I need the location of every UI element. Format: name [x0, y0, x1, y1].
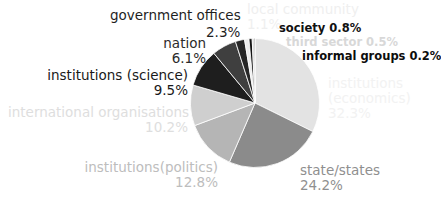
slice-label-line: international organisations [8, 105, 188, 120]
slice-value: 12.8% [78, 175, 218, 190]
slice-label-government-offices: government offices [110, 8, 241, 23]
slice-label-line: society 0.8% [279, 22, 361, 35]
pie-chart [190, 38, 320, 168]
slice-label-informal-groups: informal groups 0.2% [302, 50, 441, 63]
slice-label-line: institutions (science) [22, 68, 188, 83]
slice-value: 2.3% [206, 25, 240, 40]
slice-label-line: state/states [300, 163, 380, 178]
slice-label-line: nation [90, 36, 206, 51]
slice-value-government-offices: 2.3% [206, 25, 240, 40]
slice-label-line: government offices [110, 8, 241, 23]
slice-label-line: local community [247, 2, 359, 17]
slice-label-institutions-economics: institutions (economics) 32.3% [328, 76, 411, 121]
slice-label-nation: nation 6.1% [90, 36, 206, 66]
slice-label-institutions-politics: institutions(politics) 12.8% [78, 160, 218, 190]
slice-label-society: society 0.8% [279, 22, 361, 35]
slice-label-state-states: state/states 24.2% [300, 163, 380, 193]
slice-label-line: (economics) [328, 91, 411, 106]
slice-label-international-organisations: international organisations 10.2% [8, 105, 188, 135]
slice-value: 32.3% [328, 106, 411, 121]
slice-label-institutions-science: institutions (science) 9.5% [22, 68, 188, 98]
slice-label-line: institutions [328, 76, 411, 91]
slice-label-line: informal groups 0.2% [302, 50, 441, 63]
slice-value: 10.2% [8, 120, 188, 135]
pie-slice-group [190, 39, 319, 168]
slice-value: 9.5% [22, 83, 188, 98]
slice-label-third-sector: third sector 0.5% [286, 36, 398, 49]
slice-label-line: third sector 0.5% [286, 36, 398, 49]
pie-svg [190, 38, 320, 168]
slice-value: 6.1% [90, 51, 206, 66]
slice-value: 24.2% [300, 178, 380, 193]
slice-label-line: institutions(politics) [78, 160, 218, 175]
